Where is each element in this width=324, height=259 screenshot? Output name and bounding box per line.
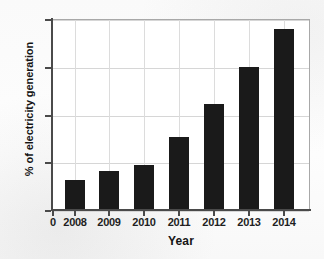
bar-2013 xyxy=(239,67,259,209)
x-tick-label-2010: 2010 xyxy=(132,216,155,228)
bar-2012 xyxy=(204,104,224,209)
x-tick-label-2009: 2009 xyxy=(97,216,120,228)
y-tick-mark xyxy=(45,115,51,117)
plot-area xyxy=(52,19,310,210)
bar-2011 xyxy=(169,137,189,209)
x-axis-title: Year xyxy=(52,234,310,248)
x-tick-label-2013: 2013 xyxy=(237,216,260,228)
x-tick-label-0: 0 xyxy=(50,216,56,228)
x-axis-line xyxy=(51,209,311,211)
x-tick-label-2014: 2014 xyxy=(272,216,295,228)
y-tick-mark xyxy=(45,67,51,69)
x-tick-label-2011: 2011 xyxy=(168,216,191,228)
y-axis-title: % of electricity generation xyxy=(23,14,35,204)
bar-2010 xyxy=(134,165,154,209)
gridline-horizontal xyxy=(53,116,309,117)
gridline-horizontal xyxy=(53,20,309,21)
y-tick-mark xyxy=(45,19,51,21)
y-tick-mark xyxy=(45,162,51,164)
gridline-horizontal xyxy=(53,68,309,69)
bar-2008 xyxy=(65,180,85,209)
y-tick-mark xyxy=(45,210,51,212)
y-axis-line xyxy=(51,18,53,211)
gridline-horizontal xyxy=(53,211,309,212)
bar-2014 xyxy=(274,29,294,209)
bar-2009 xyxy=(99,171,119,209)
bar-chart-figure: 02.557.510 02008200920102011201220132014… xyxy=(0,0,324,259)
x-tick-label-2008: 2008 xyxy=(63,216,86,228)
x-tick-label-2012: 2012 xyxy=(202,216,225,228)
